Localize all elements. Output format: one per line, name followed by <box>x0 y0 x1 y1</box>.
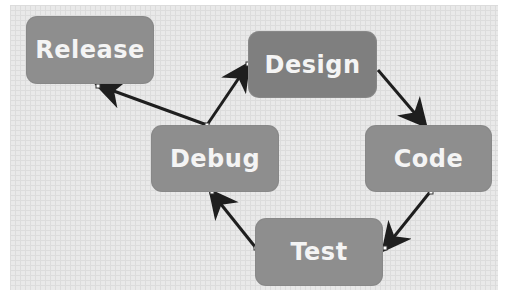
node-release[interactable]: Release <box>27 17 153 83</box>
node-label: Code <box>394 145 464 173</box>
node-test[interactable]: Test <box>256 219 382 285</box>
node-label: Test <box>290 238 347 266</box>
node-debug[interactable]: Debug <box>152 126 278 191</box>
node-label: Debug <box>170 145 260 173</box>
node-design[interactable]: Design <box>249 32 376 97</box>
node-label: Release <box>35 36 145 64</box>
node-label: Design <box>265 51 361 79</box>
node-code[interactable]: Code <box>366 126 491 191</box>
